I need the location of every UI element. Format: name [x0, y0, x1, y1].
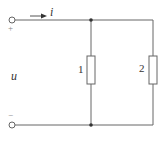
- plus-sign: +: [8, 24, 13, 33]
- current-label: i: [50, 6, 53, 18]
- minus-sign: −: [8, 111, 13, 120]
- resistor-2: [149, 56, 157, 84]
- terminal-minus: [9, 122, 15, 128]
- current-arrow-head-icon: [41, 14, 47, 19]
- bottom-node-dot: [89, 123, 93, 127]
- resistor-2-label: 2: [139, 63, 145, 74]
- top-node-dot: [89, 18, 93, 22]
- resistor-1-label: 1: [78, 64, 84, 75]
- voltage-label: u: [11, 70, 17, 82]
- resistor-1: [87, 56, 95, 84]
